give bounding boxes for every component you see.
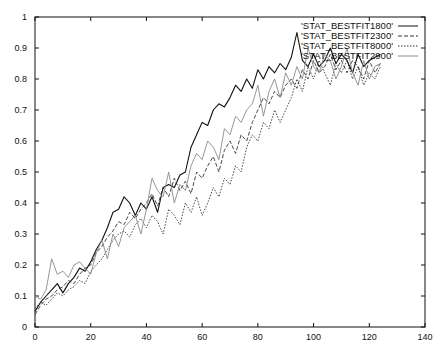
x-tick-label: 0 — [32, 332, 37, 342]
series-line-3 — [35, 48, 380, 299]
y-tick-label: 0.8 — [14, 74, 27, 84]
chart-legend: 'STAT_BESTFIT1800''STAT_BESTFIT2300''STA… — [301, 20, 418, 61]
x-tick-label: 140 — [417, 332, 432, 342]
y-tick-label: 0.9 — [14, 43, 27, 53]
y-tick-label: 0.7 — [14, 105, 27, 115]
chart-series-group — [35, 33, 380, 315]
y-tick-label: 0.3 — [14, 229, 27, 239]
legend-label: 'STAT_BESTFIT2900' — [301, 50, 393, 61]
x-tick-label: 100 — [306, 332, 321, 342]
series-line-2 — [35, 60, 380, 308]
y-tick-label: 0 — [22, 322, 27, 332]
series-line-1 — [35, 54, 380, 314]
y-tick-label: 1 — [22, 12, 27, 22]
y-tick-label: 0.5 — [14, 167, 27, 177]
line-chart: 02040608010012014000.10.20.30.40.50.60.7… — [0, 0, 446, 361]
y-tick-label: 0.4 — [14, 198, 27, 208]
x-tick-label: 60 — [197, 332, 207, 342]
x-tick-label: 120 — [362, 332, 377, 342]
x-tick-label: 40 — [141, 332, 151, 342]
x-tick-label: 20 — [86, 332, 96, 342]
y-tick-label: 0.2 — [14, 260, 27, 270]
x-tick-label: 80 — [253, 332, 263, 342]
chart-axes: 02040608010012014000.10.20.30.40.50.60.7… — [14, 12, 432, 342]
y-tick-label: 0.6 — [14, 136, 27, 146]
y-tick-label: 0.1 — [14, 291, 27, 301]
